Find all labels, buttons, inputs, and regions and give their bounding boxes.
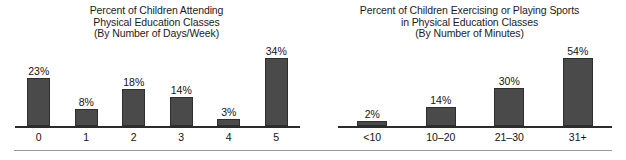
- plot-area-exercising: 2% 14% 30% 54%: [313, 38, 626, 128]
- bar-group-exercising: 2% 14% 30% 54%: [338, 38, 612, 126]
- bar-value-label: 2%: [365, 109, 380, 120]
- bar-item: 34%: [253, 38, 301, 126]
- chart-title-line: Percent of Children Exercising or Playin…: [313, 5, 626, 17]
- chart-panel-exercising: Percent of Children Exercising or Playin…: [313, 0, 626, 160]
- bar-value-label: 8%: [79, 97, 94, 108]
- x-tick-label: 21–30: [475, 131, 544, 145]
- bar-item: 14%: [158, 38, 206, 126]
- bar-item: 18%: [110, 38, 158, 126]
- bar-item: 54%: [544, 38, 613, 126]
- x-tick-label: 4: [205, 131, 253, 145]
- bar-item: 30%: [475, 38, 544, 126]
- bar-rect: [217, 119, 240, 126]
- x-axis-labels-attendance: 0 1 2 3 4 5: [15, 131, 300, 145]
- x-tick-label: 3: [158, 131, 206, 145]
- bar-item: 23%: [15, 38, 63, 126]
- x-axis-labels-exercising: <10 10–20 21–30 31+: [338, 131, 612, 145]
- chart-title-line: Percent of Children Attending: [0, 5, 313, 17]
- bar-rect: [265, 58, 288, 126]
- x-tick-label: 1: [63, 131, 111, 145]
- chart-figure: Percent of Children Attending Physical E…: [0, 0, 626, 160]
- bar-value-label: 30%: [499, 76, 520, 87]
- bar-rect: [494, 88, 524, 126]
- bar-rect: [75, 109, 98, 126]
- x-tick-label: 2: [110, 131, 158, 145]
- x-axis-line: [15, 126, 300, 128]
- footer-divider: [14, 150, 612, 151]
- x-tick-label: <10: [338, 131, 407, 145]
- bar-rect: [27, 78, 50, 126]
- bar-value-label: 34%: [266, 46, 287, 57]
- x-tick-label: 5: [253, 131, 301, 145]
- x-axis-line: [338, 126, 612, 128]
- bar-item: 3%: [205, 38, 253, 126]
- bar-value-label: 14%: [171, 85, 192, 96]
- x-tick-label: 31+: [544, 131, 613, 145]
- bar-rect: [426, 107, 456, 126]
- x-tick-label: 0: [15, 131, 63, 145]
- bar-rect: [122, 89, 145, 126]
- bar-value-label: 3%: [221, 107, 236, 118]
- chart-panel-attendance: Percent of Children Attending Physical E…: [0, 0, 313, 160]
- chart-title-exercising: Percent of Children Exercising or Playin…: [313, 5, 626, 40]
- bar-value-label: 14%: [430, 95, 451, 106]
- bar-value-label: 54%: [567, 46, 588, 57]
- bar-rect: [563, 58, 593, 126]
- chart-title-attendance: Percent of Children Attending Physical E…: [0, 5, 313, 40]
- bar-item: 8%: [63, 38, 111, 126]
- bar-item: 2%: [338, 38, 407, 126]
- bar-rect: [170, 97, 193, 126]
- bar-value-label: 18%: [123, 77, 144, 88]
- bar-item: 14%: [407, 38, 476, 126]
- bar-value-label: 23%: [28, 66, 49, 77]
- bar-group-attendance: 23% 8% 18% 14% 3%: [15, 38, 300, 126]
- plot-area-attendance: 23% 8% 18% 14% 3%: [0, 38, 313, 128]
- x-tick-label: 10–20: [407, 131, 476, 145]
